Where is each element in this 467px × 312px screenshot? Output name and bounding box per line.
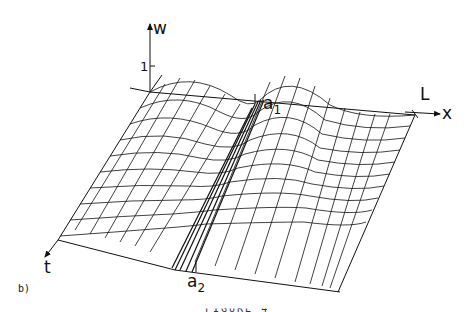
w-tick-label: 1: [140, 60, 148, 73]
a1-base: a: [263, 93, 273, 113]
a2-base: a: [187, 271, 197, 291]
surface-mesh: [60, 76, 415, 288]
a1-label: a1: [263, 95, 281, 112]
x-axis: [405, 112, 440, 114]
L-label: L: [420, 86, 429, 103]
a2-label: a2: [187, 273, 205, 290]
t-axis-label: t: [44, 259, 51, 276]
x-axis-label: x: [442, 105, 452, 122]
a2-sub: 2: [197, 281, 205, 295]
surface-plot: [0, 0, 467, 312]
panel-label: b): [18, 284, 30, 294]
wireframe-surface-figure: w 1 x t L a1 a2 b) FIGURE 4: [0, 0, 467, 312]
w-axis-label: w: [153, 20, 167, 37]
a1-sub: 1: [273, 103, 281, 117]
t-axis: [45, 240, 58, 257]
